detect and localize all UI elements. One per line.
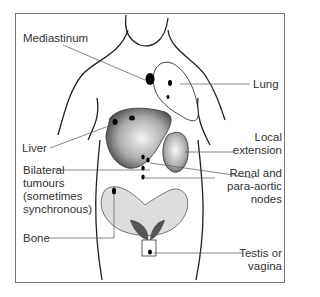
label-renal-nodes: Renal and para-aortic nodes [227, 167, 282, 206]
label-testis-vagina: Testis or vagina [239, 247, 282, 273]
label-mediastinum: Mediastinum [23, 32, 88, 45]
liver [106, 108, 171, 168]
label-bilateral-tumours: Bilateral tumours (sometimes synchronous… [23, 164, 92, 216]
kidney-tumour [163, 132, 188, 172]
label-local-extension: Local extension [233, 131, 282, 157]
label-bone: Bone [23, 232, 50, 245]
label-liver: Liver [22, 142, 47, 155]
label-lung: Lung [253, 78, 279, 91]
